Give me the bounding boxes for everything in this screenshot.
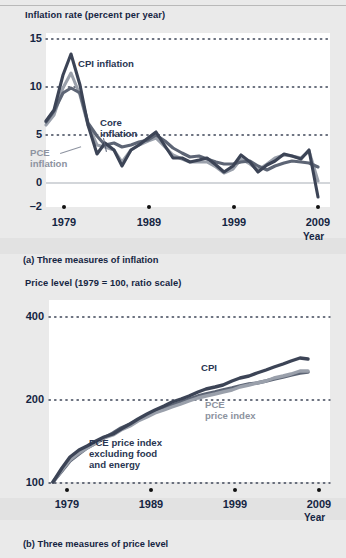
panel-a-xdot-1989 [147, 205, 151, 209]
panel-a: Inflation rate (percent per year) [0, 0, 346, 268]
panel-b-xtick-2009: 2009 [295, 498, 343, 510]
panel-a-xaxis-label: Year [303, 231, 324, 242]
panel-b-xdot-1999 [233, 488, 237, 492]
panel-a-ytick-5: 5 [20, 128, 42, 140]
panel-a-xdot-2009 [316, 205, 320, 209]
panel-b-xtick-1999: 1999 [211, 498, 259, 510]
panel-a-xtick-1989: 1989 [125, 216, 173, 228]
core-inflation-label: Core inflation [100, 117, 137, 139]
panel-b-xdot-1979 [65, 488, 69, 492]
pce-inflation-label: PCE inflation [30, 147, 67, 169]
panel-a-ytick-neg2: –2 [16, 200, 42, 212]
panel-b-xaxis-label: Year [304, 512, 325, 523]
cpi-inflation-label: CPI inflation [78, 58, 134, 69]
panel-b-ytick-400: 400 [14, 310, 44, 322]
panel-b: Price level (1979 = 100, ratio scale) 40… [0, 272, 346, 558]
figure-page: Inflation rate (percent per year) [0, 0, 346, 558]
panel-b-xdot-1989 [149, 488, 153, 492]
panel-b-ytick-200: 200 [14, 393, 44, 405]
cpi-label: CPI [201, 362, 217, 373]
pce-excluding-food-energy-label: PCE price index excluding food and energ… [89, 437, 162, 470]
panel-a-xtick-2009: 2009 [294, 216, 342, 228]
series-cpi-inflation [46, 54, 318, 197]
panel-a-axis-title: Inflation rate (percent per year) [25, 10, 165, 20]
panel-a-xdot-1979 [62, 205, 66, 209]
panel-a-ytick-15: 15 [20, 32, 42, 44]
panel-a-xtick-1999: 1999 [210, 216, 258, 228]
panel-b-xdot-2009 [317, 488, 321, 492]
panel-a-xdot-1999 [232, 205, 236, 209]
panel-b-xtick-1989: 1989 [127, 498, 175, 510]
panel-b-caption: (b) Three measures of price level [23, 539, 168, 549]
panel-b-xtick-1979: 1979 [43, 498, 91, 510]
panel-b-axis-title: Price level (1979 = 100, ratio scale) [25, 278, 181, 288]
pce-price-index-label: PCE price index [205, 399, 256, 421]
panel-a-ytick-0: 0 [20, 176, 42, 188]
panel-a-ytick-10: 10 [20, 80, 42, 92]
panel-a-xtick-1979: 1979 [40, 216, 88, 228]
panel-b-ytick-100: 100 [14, 476, 44, 488]
panel-a-caption: (a) Three measures of inflation [23, 255, 158, 265]
